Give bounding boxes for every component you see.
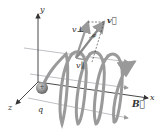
z-axis [16, 82, 38, 104]
charge-sign: + [39, 84, 45, 91]
angle-label: φ [92, 32, 96, 38]
v-label: v⃗ [107, 16, 116, 24]
v-par-label: v∥ [76, 62, 84, 70]
helix-path [42, 52, 134, 124]
field-label: B⃗ [132, 100, 145, 109]
y-axis-label: y [40, 6, 45, 14]
v-perp-label: v⊥ [72, 26, 84, 34]
x-axis [38, 82, 148, 98]
z-axis-label: z [8, 104, 12, 112]
charge-label: q [38, 106, 43, 114]
x-axis-label: x [150, 94, 155, 102]
